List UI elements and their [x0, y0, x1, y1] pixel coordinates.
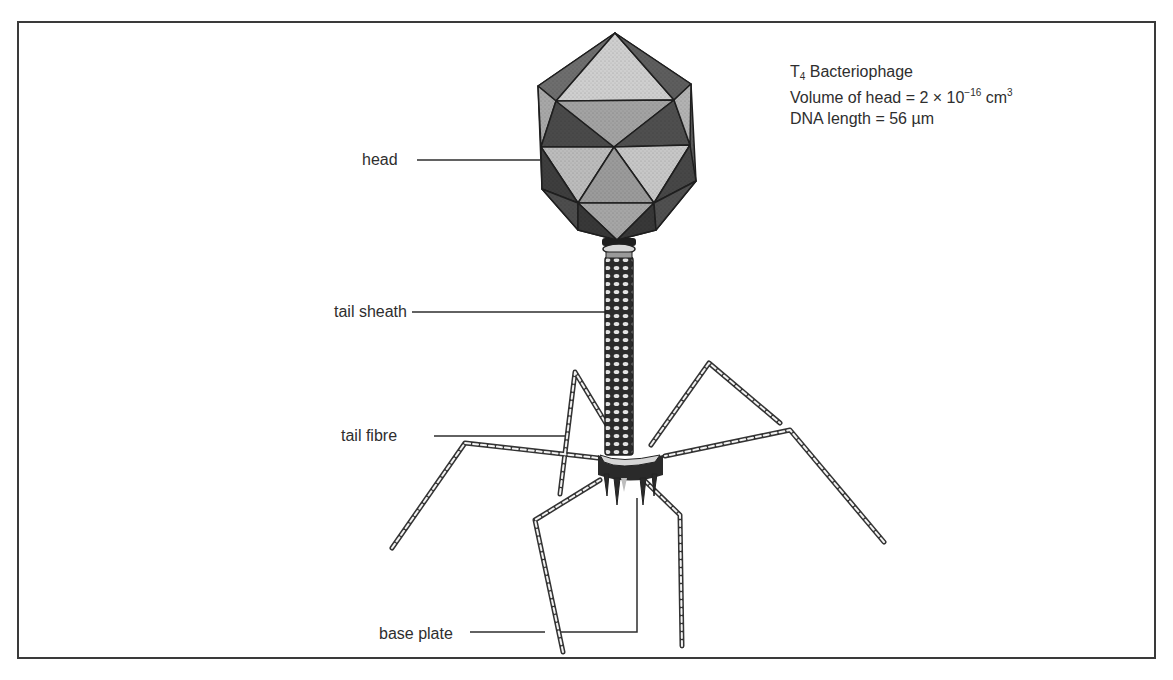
- volume-exponent: −16: [964, 87, 981, 98]
- tail-fibres: [392, 363, 884, 652]
- volume-unit: cm: [981, 89, 1007, 106]
- volume-label: Volume of head = 2 × 10: [790, 89, 964, 106]
- label-head: head: [362, 152, 398, 168]
- title-suffix: Bacteriophage: [805, 63, 913, 80]
- tail-sheath: [605, 257, 633, 455]
- base-plate-leader-line-b: [557, 498, 637, 632]
- icosahedral-head: [538, 33, 696, 240]
- label-tail-sheath: tail sheath: [334, 304, 407, 320]
- label-tail-fibre: tail fibre: [341, 428, 397, 444]
- head-volume: Volume of head = 2 × 10−16 cm3: [790, 87, 1013, 108]
- volume-unit-exponent: 3: [1007, 87, 1013, 98]
- label-base-plate: base plate: [379, 626, 453, 642]
- collar: [602, 238, 636, 258]
- phage-info-block: T4 Bacteriophage Volume of head = 2 × 10…: [790, 61, 1013, 129]
- phage-title: T4 Bacteriophage: [790, 61, 1013, 87]
- base-plate: [598, 455, 663, 505]
- dna-length: DNA length = 56 µm: [790, 108, 1013, 129]
- title-prefix: T: [790, 63, 800, 80]
